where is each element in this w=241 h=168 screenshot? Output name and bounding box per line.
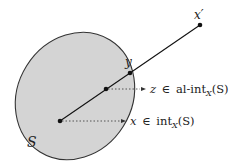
annotation-x-membership: x ∈ intX(S) [130, 114, 195, 130]
convex-set-diagram: x′ y S z ∈ al-intX(S) x ∈ intX(S) [0, 0, 241, 168]
point-y [128, 71, 133, 76]
label-y: y [124, 55, 132, 69]
annotation-z-membership: z ∈ al-intX(S) [149, 82, 229, 98]
arrowhead-z [141, 87, 146, 91]
point-x-prime [198, 23, 203, 28]
label-x-prime: x′ [194, 8, 204, 22]
point-x [58, 119, 63, 124]
point-z [104, 87, 109, 92]
label-set-s: S [27, 134, 37, 150]
set-s-region [0, 10, 158, 168]
